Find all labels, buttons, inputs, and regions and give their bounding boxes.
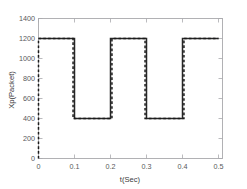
x-axis-title: t(Sec) — [120, 175, 141, 184]
ytick-label-1200: 1200 — [19, 34, 35, 43]
ytick-label-800: 800 — [23, 74, 35, 83]
chart-background — [0, 0, 247, 189]
y-axis-title: Xp(Packet) — [7, 71, 16, 109]
ytick-label-400: 400 — [23, 114, 35, 123]
xtick-label-0.1: 0.1 — [70, 162, 80, 171]
ytick-label-0: 0 — [31, 154, 35, 163]
ytick-label-1000: 1000 — [19, 54, 35, 63]
xtick-label-0.4: 0.4 — [178, 162, 188, 171]
xtick-label-0.3: 0.3 — [142, 162, 152, 171]
ytick-label-200: 200 — [23, 134, 35, 143]
xtick-label-0.2: 0.2 — [106, 162, 116, 171]
xtick-label-0: 0 — [37, 162, 41, 171]
square-wave-line-chart: 0 200 400 600 800 1000 1200 1400 0 0.1 0… — [0, 0, 247, 189]
ytick-label-600: 600 — [23, 94, 35, 103]
chart-figure: 0 200 400 600 800 1000 1200 1400 0 0.1 0… — [0, 0, 247, 189]
xtick-label-0.5: 0.5 — [214, 162, 224, 171]
ytick-label-1400: 1400 — [19, 14, 35, 23]
